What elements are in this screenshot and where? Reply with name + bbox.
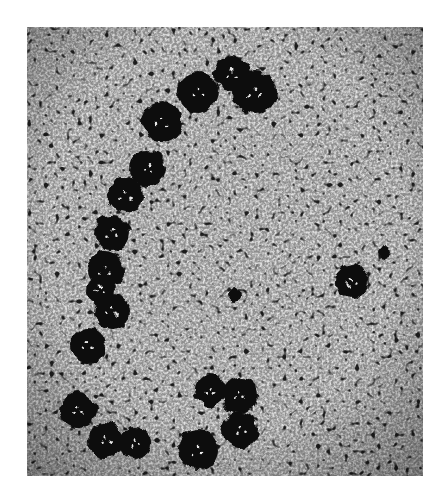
colony-blob: [70, 327, 106, 363]
colony-highlight: [226, 75, 229, 78]
colony-highlight: [87, 341, 90, 344]
colony-blob: [87, 422, 123, 458]
colony-highlight: [197, 446, 200, 449]
colony-highlight: [161, 118, 164, 121]
colony-highlight: [106, 234, 109, 237]
colony-highlight: [119, 196, 122, 199]
colony-highlight: [104, 266, 107, 269]
colony-highlight: [95, 291, 98, 294]
colony-blob: [194, 374, 226, 406]
colony-highlight: [81, 411, 84, 414]
colony-blob: [335, 265, 369, 299]
colony-blob: [229, 289, 241, 301]
colony-highlight: [124, 191, 127, 194]
colony-highlight: [130, 444, 133, 447]
colony-highlight: [147, 164, 150, 167]
colony-highlight: [102, 291, 105, 294]
colony-highlight: [192, 94, 195, 97]
colony-highlight: [111, 229, 114, 232]
colony-highlight: [259, 94, 262, 97]
colony-blob: [142, 102, 182, 142]
colony-highlight: [108, 441, 111, 444]
colony-highlight: [351, 278, 354, 281]
colony-highlight: [115, 234, 118, 237]
colony-highlight: [248, 94, 251, 97]
colony-blob: [94, 294, 130, 330]
colony-highlight: [128, 196, 131, 199]
colony-highlight: [192, 452, 195, 455]
colony-highlight: [234, 431, 237, 434]
colony-blob: [378, 246, 392, 260]
colony-highlight: [197, 88, 200, 91]
colony-highlight: [243, 396, 246, 399]
colony-blob: [222, 377, 258, 413]
colony-highlight: [355, 283, 358, 286]
colony-highlight: [235, 75, 238, 78]
colony-highlight: [111, 308, 114, 311]
colony-highlight: [254, 87, 257, 90]
micrograph-svg: [27, 27, 423, 476]
colony-blob: [178, 430, 218, 470]
colony-highlight: [104, 436, 107, 439]
colony-highlight: [346, 283, 349, 286]
colony-highlight: [108, 271, 111, 274]
colony-highlight: [231, 70, 234, 73]
colony-highlight: [134, 439, 137, 442]
colony-highlight: [82, 346, 85, 349]
colony-highlight: [243, 431, 246, 434]
colony-highlight: [72, 411, 75, 414]
colony-blob: [119, 427, 151, 459]
colony-highlight: [115, 313, 118, 316]
colony-highlight: [205, 391, 208, 394]
colony-highlight: [138, 444, 141, 447]
colony-highlight: [209, 386, 212, 389]
colony-highlight: [213, 391, 216, 394]
colony-blob: [60, 392, 96, 428]
colony-highlight: [166, 124, 169, 127]
colony-highlight: [239, 426, 242, 429]
colony-blob: [178, 72, 218, 112]
colony-highlight: [156, 124, 159, 127]
colony-highlight: [77, 406, 80, 409]
colony-highlight: [99, 271, 102, 274]
colony-highlight: [239, 391, 242, 394]
colony-highlight: [106, 313, 109, 316]
colony-highlight: [151, 169, 154, 172]
colony-highlight: [142, 169, 145, 172]
colony-highlight: [202, 452, 205, 455]
colony-highlight: [234, 396, 237, 399]
colony-blob: [222, 412, 258, 448]
colony-blob: [233, 70, 277, 114]
colony-blob: [94, 215, 130, 251]
colony-highlight: [99, 287, 102, 290]
colony-highlight: [91, 346, 94, 349]
colony-highlight: [99, 441, 102, 444]
colony-blob: [107, 177, 143, 213]
colony-highlight: [202, 94, 205, 97]
micrograph-image: [27, 27, 423, 476]
